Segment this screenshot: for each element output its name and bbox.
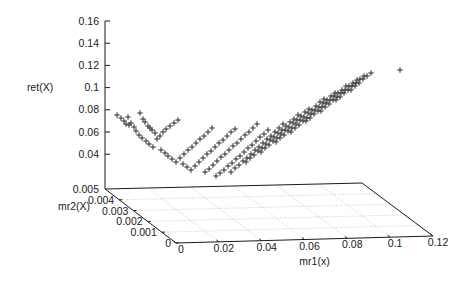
data-point-marker (173, 159, 178, 164)
data-point-marker (290, 120, 295, 125)
y-tick-label: 0.001 (131, 226, 157, 238)
base-grid-line-y (162, 225, 419, 232)
z-tick-label: 0.1 (84, 81, 99, 93)
data-point-marker (224, 133, 229, 138)
data-point-marker (286, 124, 291, 129)
z-tick-label: 0.04 (79, 148, 100, 160)
data-point-marker (197, 136, 202, 141)
data-point-marker (217, 170, 222, 175)
base-edge-back (105, 183, 362, 189)
data-point-marker (136, 132, 141, 137)
data-point-marker (160, 129, 165, 134)
data-point-marker (226, 147, 231, 152)
data-point-marker (205, 129, 210, 134)
z-tick-label: 0.16 (79, 15, 100, 27)
data-point-marker (162, 150, 167, 155)
data-point-marker (202, 169, 207, 174)
data-point-marker (180, 161, 185, 166)
data-point-marker (143, 138, 148, 143)
data-point-marker (285, 128, 290, 133)
data-point-marker (251, 152, 256, 157)
data-point-marker (167, 123, 172, 128)
x-axis-name: mr1(x) (299, 255, 329, 267)
data-point-marker (278, 131, 283, 136)
data-point-marker (255, 148, 260, 153)
data-point-marker (157, 133, 162, 138)
base-grid-line-x (234, 186, 305, 240)
data-point-marker (282, 127, 287, 132)
data-point-marker (268, 133, 273, 138)
base-grid-line-x (148, 188, 219, 242)
data-point-marker (175, 117, 180, 122)
data-point-marker (260, 140, 265, 145)
data-point-marker (272, 129, 277, 134)
data-point-marker (208, 148, 213, 153)
data-point-marker (302, 109, 307, 114)
data-point-marker (222, 151, 227, 156)
data-point-marker (293, 121, 298, 126)
data-point-marker (234, 140, 239, 145)
data-point-marker (225, 163, 230, 168)
data-point-marker (158, 147, 163, 152)
data-point-marker (258, 149, 263, 154)
data-point-marker (220, 137, 225, 142)
data-point-marker (287, 119, 292, 124)
data-point-marker (196, 159, 201, 164)
data-point-marker (273, 139, 278, 144)
data-point-marker (256, 144, 261, 149)
data-point-marker (177, 155, 182, 160)
data-point-marker (204, 151, 209, 156)
data-point-marker (264, 136, 269, 141)
data-point-marker (271, 134, 276, 139)
data-point-marker (263, 141, 268, 146)
x-tick-label: 0.04 (256, 241, 277, 253)
data-point-marker (360, 76, 365, 81)
x-tick-label: 0.1 (388, 237, 403, 249)
data-point-marker (240, 158, 245, 163)
data-point-marker (163, 126, 168, 131)
data-point-marker (317, 99, 322, 104)
data-point-marker (201, 133, 206, 138)
data-point-marker (218, 154, 223, 159)
data-point-marker (275, 130, 280, 135)
data-point-group (114, 67, 402, 178)
data-point-marker (192, 163, 197, 168)
z-axis-name: ret(X) (27, 81, 53, 93)
data-point-marker (266, 142, 271, 147)
data-point-marker (242, 132, 247, 137)
data-point-marker (270, 138, 275, 143)
z-tick-label: 0.06 (79, 126, 100, 138)
z-tick-label: 0.14 (79, 37, 100, 49)
data-point-marker (253, 138, 258, 143)
data-point-marker (245, 145, 250, 150)
data-point-marker (254, 121, 259, 126)
data-point-marker (185, 147, 190, 152)
data-point-marker (169, 156, 174, 161)
plot-canvas: 0.160.140.120.10.080.060.040.005ret(X)0.… (0, 0, 475, 286)
data-point-marker (114, 112, 119, 117)
data-point-marker (212, 144, 217, 149)
x-tick-label: 0.12 (428, 236, 449, 248)
data-point-marker (118, 115, 123, 120)
data-point-marker (247, 155, 252, 160)
data-point-marker (228, 129, 233, 134)
data-point-marker (221, 167, 226, 172)
y-axis-name: mr2(X) (58, 200, 90, 212)
data-point-marker (233, 156, 238, 161)
x-tick-label: 0.06 (299, 240, 320, 252)
data-point-marker (200, 155, 205, 160)
data-point-marker (137, 110, 142, 115)
data-point-marker (313, 103, 318, 108)
data-point-marker (152, 130, 157, 135)
data-point-marker (261, 131, 266, 136)
z-tick-label: 0.08 (79, 103, 100, 115)
data-point-marker (165, 153, 170, 158)
data-point-marker (281, 132, 286, 137)
data-point-marker (216, 140, 221, 145)
data-point-marker (250, 125, 255, 130)
x-tick-label: 0.02 (214, 242, 235, 254)
data-point-marker (206, 166, 211, 171)
data-point-marker (262, 145, 267, 150)
data-point-marker (397, 67, 402, 72)
data-point-marker (364, 73, 369, 78)
